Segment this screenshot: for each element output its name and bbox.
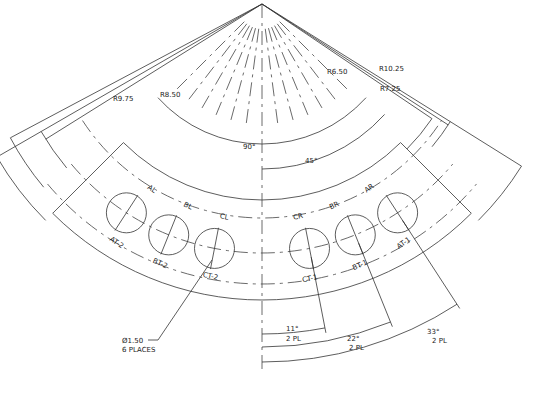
radial-centerline [177, 22, 244, 89]
hole-radial-mark [161, 215, 177, 254]
drawing-canvas: R9.75 R8.50 R6.50 R7.25 R10.25 90° 45° A… [0, 0, 550, 397]
right-edge [401, 143, 472, 214]
hole-label-at-1: AT-1 [395, 235, 412, 250]
hole-label-ct-2: CT-2 [202, 271, 219, 282]
arc-r8-50-ext [41, 132, 66, 168]
angular-ext-line [311, 257, 326, 333]
hole-label-bl: BL [182, 201, 193, 212]
hole-callout-leader [148, 260, 212, 340]
radius-label-7-25: R7.25 [380, 85, 400, 93]
hole-label-cr: CR [292, 212, 303, 222]
radius-label-6-50: R6.50 [327, 68, 347, 76]
angle-label-45: 45° [305, 157, 317, 165]
angle-dim-33: 33° [427, 328, 439, 336]
hole-label-bt-1: BT-1 [351, 258, 368, 272]
hole-label-br: BR [328, 200, 340, 211]
radial-centerline [268, 28, 293, 120]
leader-r8-50 [46, 4, 262, 139]
radius-label-8-50: R8.50 [160, 91, 180, 99]
left-edge [53, 143, 124, 214]
arc-r9-75-ext [10, 138, 43, 187]
hole-callout-diameter: Ø1.50 [122, 337, 143, 345]
hole-radial-mark [210, 228, 218, 269]
angle-dim-22-note: 2 PL [349, 344, 364, 352]
leader-r10-25-left [0, 4, 262, 157]
arc-r7-25-ext [432, 122, 450, 147]
angular-ext-line [359, 243, 393, 326]
sector-geometry [0, 4, 522, 374]
angular-dim-arc [262, 322, 390, 347]
radius-label-9-75: R9.75 [113, 95, 133, 103]
hole-label-bt-2: BT-2 [151, 257, 168, 271]
radial-centerline [202, 26, 250, 108]
radius-label-10-25: R10.25 [379, 65, 404, 73]
drawing-labels: R9.75 R8.50 R6.50 R7.25 R10.25 90° 45° A… [108, 65, 447, 354]
angle-dim-33-note: 2 PL [432, 337, 447, 345]
angle-dim-11-note: 2 PL [286, 335, 301, 343]
radial-centerline [280, 22, 347, 89]
leader-r6-50 [262, 4, 432, 119]
radial-centerline [231, 28, 256, 120]
angle-label-90: 90° [243, 143, 255, 151]
hole-label-at-2: AT-2 [108, 235, 125, 250]
hole-label-ar: AR [363, 182, 376, 194]
hole-label-cl: CL [219, 212, 229, 222]
hole-callout-count: 6 PLACES [122, 346, 156, 354]
hole-radial-mark [115, 195, 138, 230]
angular-ext-line [403, 220, 460, 308]
angle-dim-11: 11° [286, 325, 298, 333]
angle-dim-22: 22° [347, 335, 359, 343]
arc-r10-25-ext-right [478, 166, 521, 220]
arc-r10-25-ext-left [0, 157, 46, 220]
radial-centerline [265, 29, 277, 123]
leader-r9-75 [10, 4, 262, 138]
radial-centerline [246, 29, 258, 123]
arc-r6-50-ext [407, 119, 432, 149]
angle-dim-arc-45 [262, 114, 385, 169]
